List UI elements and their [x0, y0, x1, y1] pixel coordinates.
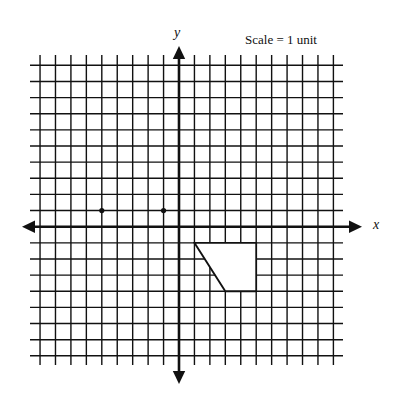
coordinate-plane: x y Scale = 1 unit [0, 0, 395, 396]
x-axis-left-arrow-icon [22, 221, 35, 233]
x-axis-label: x [372, 217, 380, 232]
axes [22, 46, 362, 384]
y-axis-down-arrow-icon [173, 371, 185, 384]
quadrilateral-shape [194, 243, 256, 291]
quadrilateral [194, 243, 256, 291]
grid-lines [30, 55, 343, 365]
scale-label: Scale = 1 unit [245, 32, 317, 47]
y-axis-up-arrow-icon [173, 46, 185, 59]
y-axis-label: y [172, 25, 181, 40]
plotted-point-dot-icon [99, 208, 104, 213]
x-axis-right-arrow-icon [349, 221, 362, 233]
plotted-point-dot-icon [161, 208, 166, 213]
